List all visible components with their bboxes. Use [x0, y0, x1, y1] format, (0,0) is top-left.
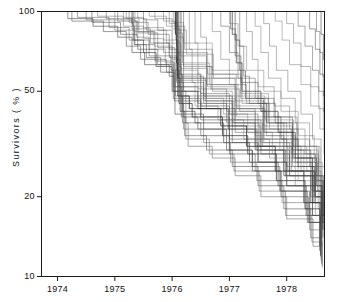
survival-curve [138, 12, 323, 216]
survival-curve [115, 12, 321, 238]
survival-chart-figure: Survivors ( % ) 100502010 19741975197619… [0, 0, 344, 302]
x-tick-label: 1974 [38, 284, 78, 294]
survival-curve [186, 12, 323, 230]
x-tick-label: 1978 [267, 284, 307, 294]
survival-curve [255, 12, 324, 192]
plot-frame [42, 12, 325, 277]
x-tick-label: 1977 [209, 284, 249, 294]
survival-curve [95, 12, 323, 209]
y-tick-label: 50 [7, 85, 35, 95]
survival-curve [310, 12, 325, 99]
x-tick-label: 1976 [152, 284, 192, 294]
survival-curve [78, 12, 321, 216]
survival-curve [176, 12, 323, 268]
survival-curve [174, 12, 322, 266]
survival-curves-group [55, 12, 325, 268]
survival-curve [89, 12, 323, 209]
x-tick-label: 1975 [95, 284, 135, 294]
survival-curve [63, 12, 322, 238]
survival-curve [101, 12, 323, 230]
survival-curve [172, 12, 320, 251]
y-tick-label: 100 [7, 6, 35, 16]
survival-curve [66, 12, 323, 216]
survival-curve [132, 12, 323, 209]
survival-curve [126, 12, 322, 203]
survival-curve [164, 12, 324, 216]
survival-curve [181, 12, 324, 238]
plot-area [0, 0, 344, 302]
y-tick-label: 10 [7, 271, 35, 281]
y-tick-label: 20 [7, 191, 35, 201]
